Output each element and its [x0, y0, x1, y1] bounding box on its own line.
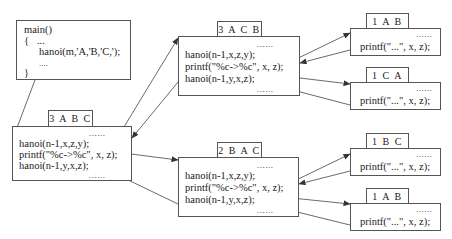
frame-label-3abc: 3 A B C [48, 110, 93, 126]
dots: ...... [257, 85, 274, 93]
code-line: printf("...", x, z); [360, 41, 430, 53]
frame-label-1bca: 1 B C A [366, 133, 409, 149]
frame-label-1abc-bottom: 1 A B C [366, 188, 409, 204]
frame-label-1cab: 1 C A B [366, 67, 409, 83]
code-line: hanoi(n-1,x,z,y); [185, 49, 255, 61]
frame-3acb: ...... hanoi(n-1,x,z,y); printf("%c->%c"… [178, 36, 300, 96]
dots: ...... [257, 206, 274, 214]
code-line: hanoi(n-1,y,x,z); [19, 160, 89, 172]
frame-3abc: ...... hanoi(n-1,x,z,y); printf("%c->%c"… [12, 126, 132, 181]
code-line: printf("...", x, z); [360, 161, 430, 173]
frame-label-3acb: 3 A C B [217, 21, 262, 37]
dots: ...... [257, 161, 274, 169]
main-line-4: } [24, 67, 29, 79]
frame-2bac: ...... hanoi(n-1,x,z,y); printf("%c->%c"… [178, 157, 299, 217]
frame-label-1abc-top: 1 A B C [366, 13, 409, 29]
code-line: printf("...", x, z); [360, 216, 430, 228]
main-line-2: hanoi(m,'A,'B,'C,'); [39, 46, 120, 58]
frame-1abc-bottom: ...... printf("...", x, z); [350, 203, 441, 231]
dots: ...... [416, 30, 433, 38]
code-line: printf("%c->%c", x, z); [185, 61, 283, 73]
frame-1abc-top: ...... printf("...", x, z); [350, 28, 441, 56]
dots: ...... [416, 150, 433, 158]
main-line-3: .... [39, 57, 48, 69]
code-line: hanoi(n-1,y,x,z); [185, 194, 255, 206]
frame-label-2bac: 2 B A C [217, 142, 262, 158]
dots: ...... [416, 84, 433, 92]
frame-1bca: ...... printf("...", x, z); [350, 148, 441, 176]
dots: ...... [416, 205, 433, 213]
code-line: hanoi(n-1,y,x,z); [185, 73, 255, 85]
code-line: printf("%c->%c", x, z); [185, 182, 283, 194]
dots: ...... [89, 129, 106, 137]
dots: ...... [89, 171, 106, 179]
main-function-box: main() { ... hanoi(m,'A,'B,'C,'); .... } [16, 20, 131, 80]
code-line: hanoi(n-1,x,z,y); [185, 170, 255, 182]
frame-1cab: ...... printf("...", x, z); [350, 82, 441, 110]
code-line: printf("...", x, z); [360, 95, 430, 107]
dots: ...... [257, 40, 274, 48]
